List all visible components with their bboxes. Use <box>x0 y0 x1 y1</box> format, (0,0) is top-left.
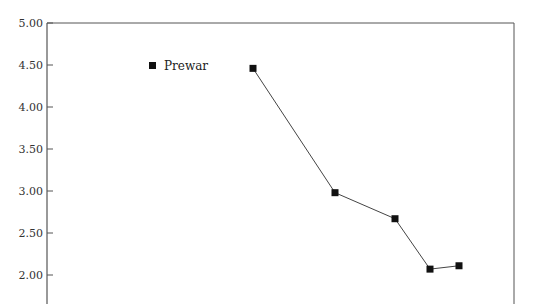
y-tick-label: 3.00 <box>19 185 44 198</box>
series-prewar <box>250 65 463 273</box>
series-line <box>253 68 459 269</box>
data-point-square-icon <box>427 266 434 273</box>
legend: Prewar <box>149 59 208 73</box>
y-tick-label: 4.50 <box>19 59 44 72</box>
plot-frame <box>47 23 514 304</box>
data-point-square-icon <box>250 65 257 72</box>
y-tick-label: 2.50 <box>19 227 44 240</box>
y-axis-ticks: 5.004.504.003.503.002.502.00 <box>19 17 54 282</box>
y-tick-label: 2.00 <box>19 269 44 282</box>
data-point-square-icon <box>456 262 463 269</box>
line-chart: 5.004.504.003.503.002.502.00 Prewar <box>0 0 541 304</box>
legend-label-prewar: Prewar <box>164 59 208 73</box>
y-tick-label: 5.00 <box>19 17 44 30</box>
data-point-square-icon <box>332 189 339 196</box>
y-tick-label: 3.50 <box>19 143 44 156</box>
y-tick-label: 4.00 <box>19 101 44 114</box>
data-point-square-icon <box>392 215 399 222</box>
legend-marker-square-icon <box>149 62 156 69</box>
